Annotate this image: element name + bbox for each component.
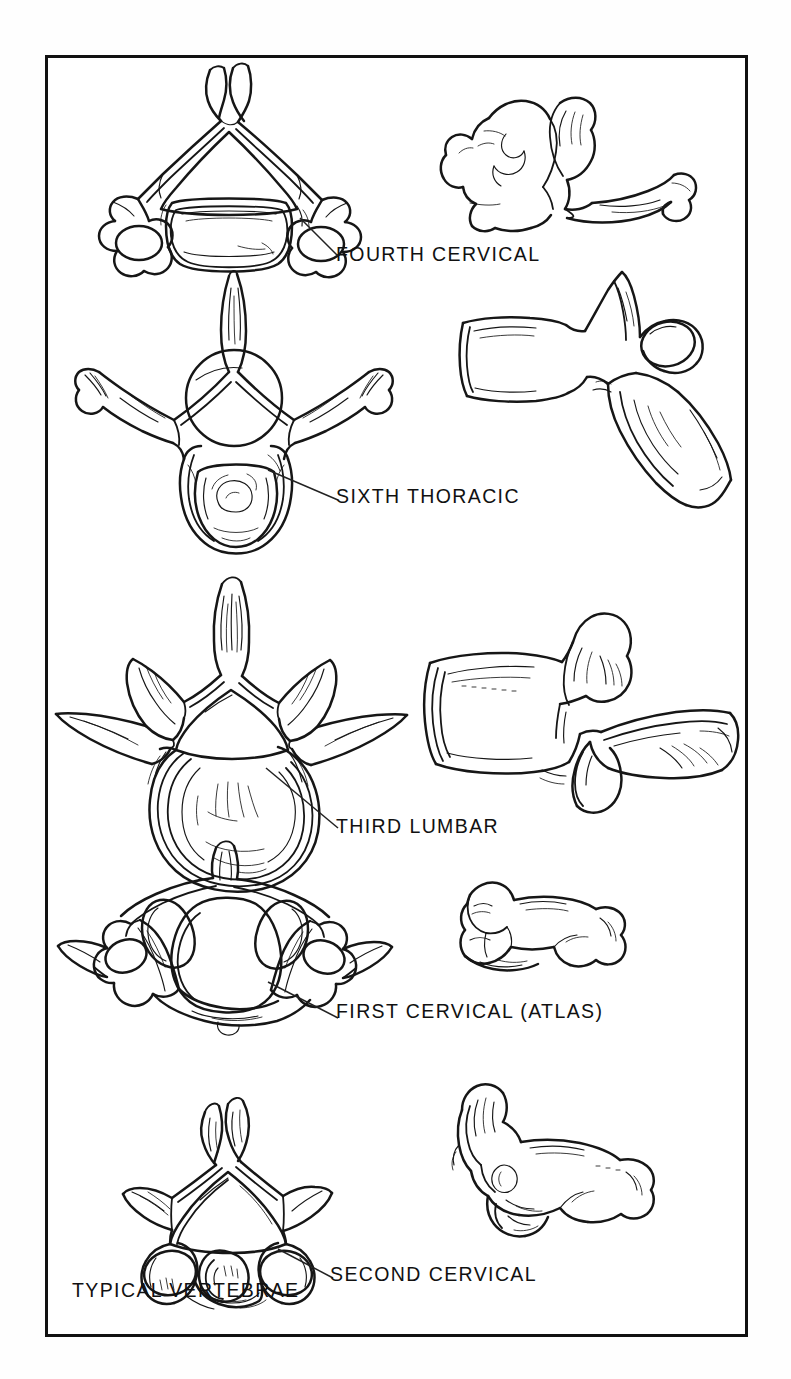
label-third-lumbar: THIRD LUMBAR [336,817,499,837]
label-first-cervical-atlas: FIRST CERVICAL (ATLAS) [336,1002,603,1022]
label-second-cervical: SECOND CERVICAL [330,1265,537,1285]
plate-title-typical-vertebrae: TYPICAL VERTEBRAE [72,1281,300,1301]
label-fourth-cervical: FOURTH CERVICAL [336,245,540,265]
label-sixth-thoracic: SIXTH THORACIC [336,487,520,507]
anatomical-plate: FOURTH CERVICAL SIXTH THORACIC THIRD LUM… [0,0,791,1379]
